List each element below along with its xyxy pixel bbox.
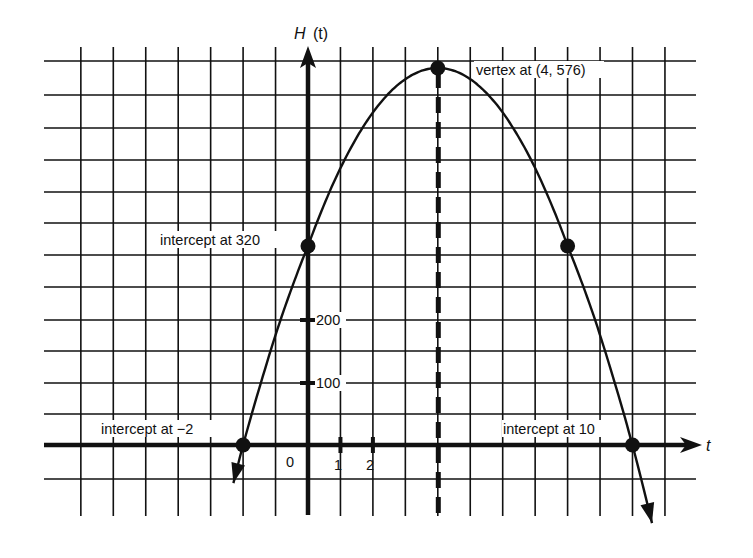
x-axis-title: t: [706, 437, 711, 454]
marked-point: [625, 438, 640, 453]
x-tick-label-0: 0: [286, 454, 294, 470]
curve-arrowheads: [231, 462, 654, 523]
y-axis-title: H (t): [294, 25, 328, 42]
marked-point: [301, 239, 316, 254]
right-intercept-label: intercept at 10: [503, 421, 595, 437]
left-intercept-label: intercept at −2: [101, 421, 193, 437]
marked-point: [236, 438, 251, 453]
y-tick-label-200: 200: [316, 312, 340, 328]
parabola-chart: H (t) t 0 1 2 200 100 intercept at 320 v…: [0, 0, 753, 558]
marked-point: [430, 61, 445, 76]
x-tick-labels: 0 1 2: [286, 454, 374, 473]
x-tick-label-2: 2: [366, 457, 374, 473]
curve-right-arrow-icon: [640, 502, 654, 523]
vertex-label: vertex at (4, 576): [476, 62, 586, 78]
y-intercept-label: intercept at 320: [160, 232, 260, 248]
x-tick-label-1: 1: [334, 457, 342, 473]
y-tick-label-100: 100: [316, 375, 340, 391]
parabola-curve: [233, 68, 652, 523]
marked-point: [560, 239, 575, 254]
